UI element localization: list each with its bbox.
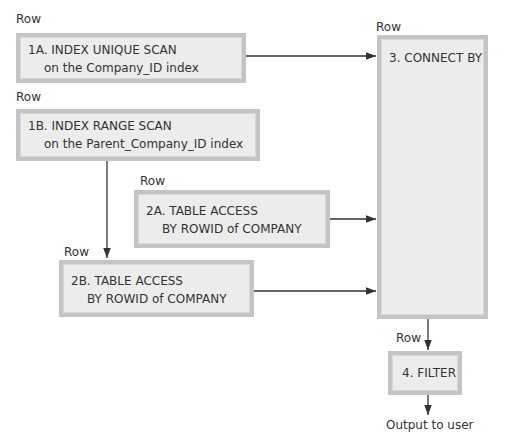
node-4-title: 4. FILTER: [402, 366, 456, 380]
row-label-3: Row: [376, 20, 401, 34]
node-2a-title: 2A. TABLE ACCESS: [146, 204, 258, 218]
node-1b-index-range-scan: 1B. INDEX RANGE SCAN on the Parent_Compa…: [16, 109, 260, 161]
row-label-2a: Row: [140, 174, 165, 188]
row-label-4: Row: [396, 331, 421, 345]
node-3-connect-by: 3. CONNECT BY: [377, 35, 488, 319]
node-4-filter: 4. FILTER: [388, 351, 462, 395]
row-label-1a: Row: [16, 12, 41, 26]
node-2a-table-access: 2A. TABLE ACCESS BY ROWID of COMPANY: [134, 190, 330, 248]
row-label-2b: Row: [64, 245, 89, 259]
node-3-title: 3. CONNECT BY: [389, 51, 482, 65]
output-label: Output to user: [386, 418, 474, 432]
node-1a-index-unique-scan: 1A. INDEX UNIQUE SCAN on the Company_ID …: [16, 33, 246, 83]
node-2b-subtitle: BY ROWID of COMPANY: [87, 292, 227, 306]
node-1a-title: 1A. INDEX UNIQUE SCAN: [28, 43, 177, 57]
node-2b-table-access: 2B. TABLE ACCESS BY ROWID of COMPANY: [59, 260, 254, 317]
row-label-1b: Row: [16, 90, 41, 104]
node-2b-title: 2B. TABLE ACCESS: [71, 274, 183, 288]
node-2a-subtitle: BY ROWID of COMPANY: [162, 222, 302, 236]
node-1a-subtitle: on the Company_ID index: [44, 61, 199, 75]
node-1b-subtitle: on the Parent_Company_ID index: [44, 137, 243, 151]
node-1b-title: 1B. INDEX RANGE SCAN: [28, 119, 172, 133]
